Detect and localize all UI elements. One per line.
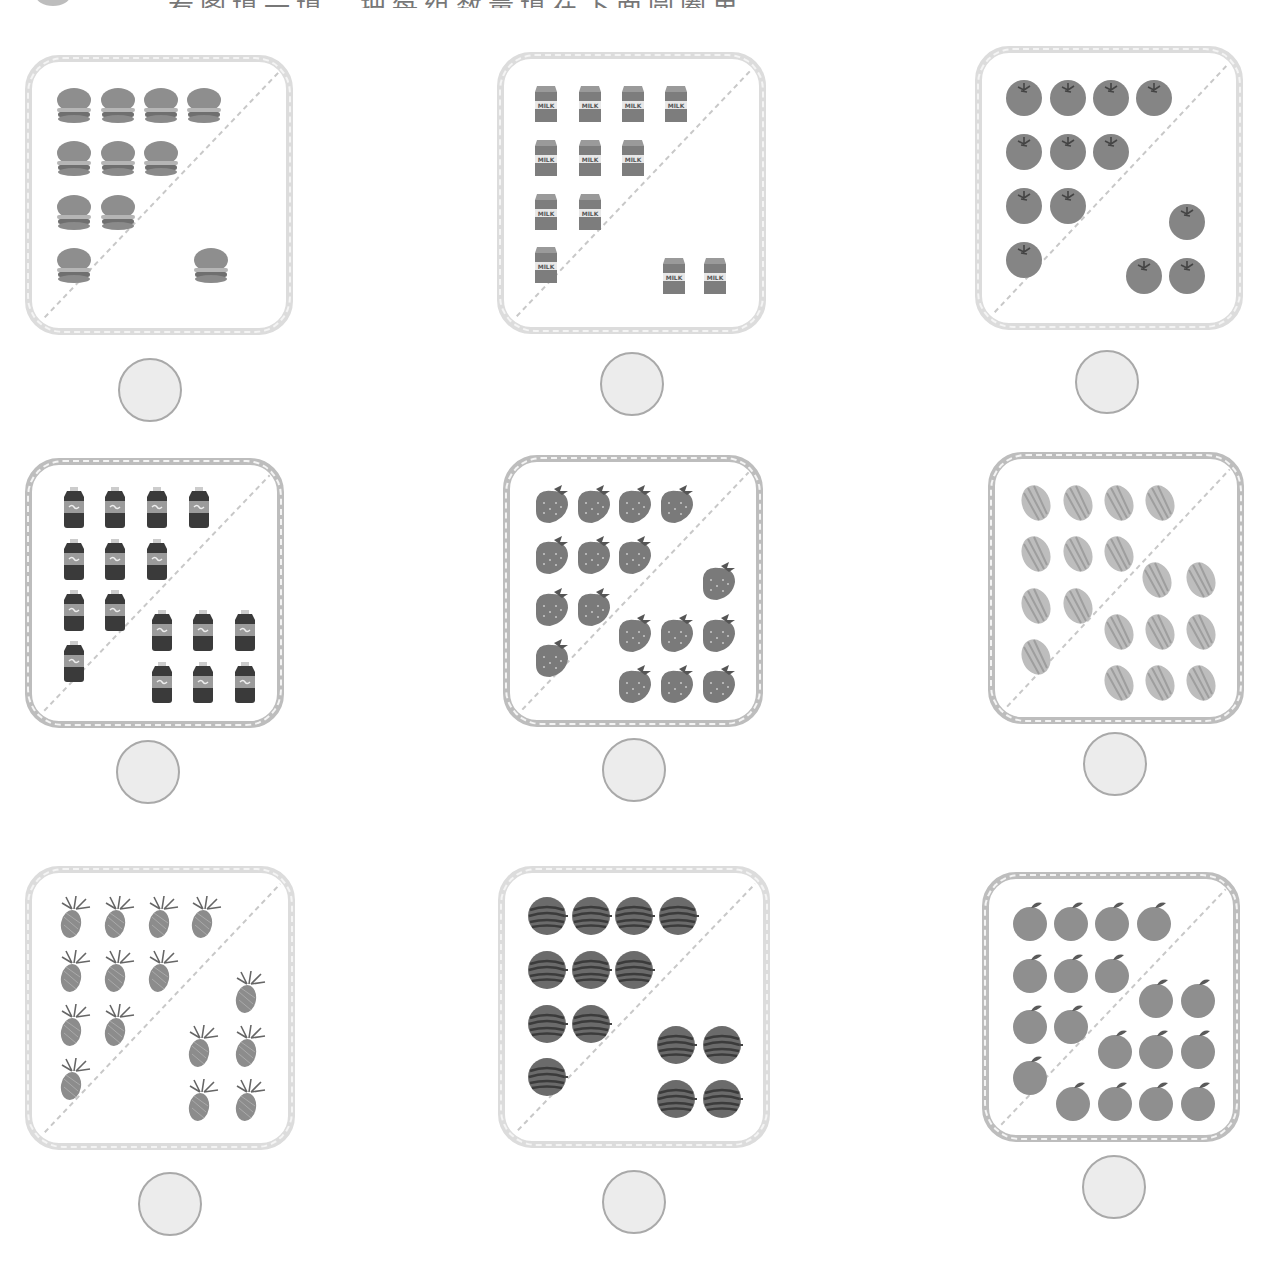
orange-icon xyxy=(1091,951,1135,995)
watermelon-icon xyxy=(570,894,614,938)
tomato-icon xyxy=(1165,199,1209,243)
milk-carton-icon: MILK xyxy=(654,80,698,124)
melon-icon xyxy=(1138,480,1182,524)
tomato-icon xyxy=(1046,183,1090,227)
burger-icon xyxy=(139,83,183,127)
cola-bottle-icon xyxy=(52,537,96,581)
strawberry-icon xyxy=(613,663,657,707)
strawberry-icon xyxy=(697,560,741,604)
orange-icon xyxy=(1177,976,1221,1020)
answer-circle-melon[interactable] xyxy=(1083,732,1147,796)
answer-circle-cola[interactable] xyxy=(116,740,180,804)
melon-icon xyxy=(1138,609,1182,653)
melon-icon xyxy=(1097,609,1141,653)
cola-bottle-icon xyxy=(93,537,137,581)
answer-circle-strawberry[interactable] xyxy=(602,738,666,802)
tomato-icon xyxy=(1002,129,1046,173)
answer-circle-milk[interactable] xyxy=(600,352,664,416)
strawberry-icon xyxy=(572,483,616,527)
melon-icon xyxy=(1014,583,1058,627)
watermelon-icon xyxy=(570,948,614,992)
burger-icon xyxy=(52,136,96,180)
milk-carton-icon: MILK xyxy=(652,252,696,296)
orange-icon xyxy=(1050,1002,1094,1046)
cola-bottle-icon xyxy=(223,660,267,704)
burger-icon xyxy=(52,243,96,287)
milk-carton-icon: MILK xyxy=(611,80,655,124)
answer-circle-pineapple[interactable] xyxy=(138,1172,202,1236)
orange-icon xyxy=(1135,1027,1179,1071)
melon-icon xyxy=(1014,480,1058,524)
melon-icon xyxy=(1097,531,1141,575)
watermelon-icon xyxy=(655,1077,699,1121)
melon-icon xyxy=(1138,660,1182,704)
tomato-icon xyxy=(1002,75,1046,119)
strawberry-icon xyxy=(572,586,616,630)
orange-icon xyxy=(1052,1079,1096,1123)
svg-text:MILK: MILK xyxy=(538,156,555,163)
burger-icon xyxy=(96,190,140,234)
svg-text:MILK: MILK xyxy=(666,274,683,281)
strawberry-icon xyxy=(530,483,574,527)
burger-icon xyxy=(189,243,233,287)
orange-icon xyxy=(1094,1079,1138,1123)
orange-icon xyxy=(1133,899,1177,943)
burger-icon xyxy=(96,136,140,180)
melon-icon xyxy=(1056,531,1100,575)
melon-icon xyxy=(1056,583,1100,627)
burger-icon xyxy=(139,136,183,180)
cola-bottle-icon xyxy=(135,537,179,581)
cola-bottle-icon xyxy=(181,608,225,652)
milk-carton-icon: MILK xyxy=(568,134,612,178)
tomato-icon xyxy=(1089,75,1133,119)
burger-icon xyxy=(52,190,96,234)
counting-card-burger xyxy=(25,55,293,335)
counting-card-strawberry xyxy=(503,455,763,727)
tomato-icon xyxy=(1046,129,1090,173)
tomato-icon xyxy=(1002,237,1046,281)
pineapple-icon xyxy=(96,949,140,993)
burger-icon xyxy=(182,83,226,127)
strawberry-icon xyxy=(613,534,657,578)
watermelon-icon xyxy=(657,894,701,938)
orange-icon xyxy=(1177,1027,1221,1071)
melon-icon xyxy=(1097,480,1141,524)
svg-text:MILK: MILK xyxy=(625,156,642,163)
answer-circle-watermelon[interactable] xyxy=(602,1170,666,1234)
melon-icon xyxy=(1179,609,1223,653)
cola-bottle-icon xyxy=(52,588,96,632)
pineapple-icon xyxy=(96,1003,140,1047)
melon-icon xyxy=(1179,557,1223,601)
milk-carton-icon: MILK xyxy=(524,241,568,285)
pineapple-icon xyxy=(52,895,96,939)
melon-icon xyxy=(1056,480,1100,524)
pineapple-icon xyxy=(52,1057,96,1101)
question-number-badge xyxy=(36,0,70,6)
cola-bottle-icon xyxy=(223,608,267,652)
strawberry-icon xyxy=(655,483,699,527)
counting-card-watermelon xyxy=(498,866,770,1148)
answer-circle-orange[interactable] xyxy=(1082,1155,1146,1219)
pineapple-icon xyxy=(227,970,271,1014)
strawberry-icon xyxy=(530,586,574,630)
orange-icon xyxy=(1135,976,1179,1020)
orange-icon xyxy=(1177,1079,1221,1123)
strawberry-icon xyxy=(530,534,574,578)
answer-circle-burger[interactable] xyxy=(118,358,182,422)
orange-icon xyxy=(1135,1079,1179,1123)
strawberry-icon xyxy=(697,663,741,707)
pineapple-icon xyxy=(180,1078,224,1122)
melon-icon xyxy=(1179,660,1223,704)
melon-icon xyxy=(1014,531,1058,575)
answer-circle-tomato[interactable] xyxy=(1075,350,1139,414)
strawberry-icon xyxy=(655,612,699,656)
milk-carton-icon: MILK xyxy=(611,134,655,178)
watermelon-icon xyxy=(613,894,657,938)
tomato-icon xyxy=(1089,129,1133,173)
pineapple-icon xyxy=(227,1024,271,1068)
cola-bottle-icon xyxy=(93,588,137,632)
watermelon-icon xyxy=(570,1002,614,1046)
pineapple-icon xyxy=(96,895,140,939)
orange-icon xyxy=(1050,951,1094,995)
counting-card-orange xyxy=(982,872,1240,1142)
